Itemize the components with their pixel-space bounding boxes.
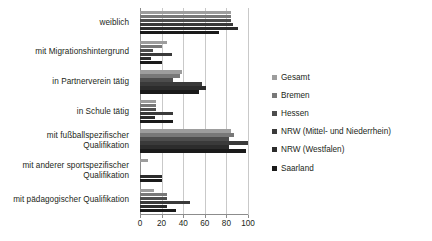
bar[interactable] <box>140 53 172 56</box>
bar[interactable] <box>140 15 231 18</box>
bar-row <box>140 129 248 132</box>
bar[interactable] <box>140 82 202 85</box>
bar-row <box>140 179 248 182</box>
bar[interactable] <box>140 141 248 144</box>
bar[interactable] <box>140 108 156 111</box>
bar-row <box>140 171 248 174</box>
bar-row <box>140 133 248 136</box>
bar[interactable] <box>140 179 162 182</box>
category-label: mit pädagogischer Qualifikation <box>0 185 134 215</box>
bar[interactable] <box>140 201 190 204</box>
bar-row <box>140 31 248 34</box>
bar[interactable] <box>140 189 154 192</box>
bar-row <box>140 167 248 170</box>
bar[interactable] <box>140 104 156 107</box>
bar-row <box>140 90 248 93</box>
category-axis-labels: weiblichmit Migrationshintergrundin Part… <box>0 8 134 215</box>
bar[interactable] <box>140 45 162 48</box>
bar-row <box>140 74 248 77</box>
tick-label: 40 <box>179 219 188 228</box>
bar[interactable] <box>140 27 238 30</box>
legend-label: Gesamt <box>281 73 310 82</box>
bar[interactable] <box>140 11 231 14</box>
bar-group <box>140 156 248 186</box>
tick-mark <box>226 215 227 218</box>
legend-item[interactable]: Hessen <box>272 104 430 122</box>
bar[interactable] <box>140 41 167 44</box>
bar-row <box>140 70 248 73</box>
bar[interactable] <box>140 137 229 140</box>
bar-group <box>140 8 248 38</box>
category-label: mit anderer sportspezifischer Qualifikat… <box>0 156 134 186</box>
bar-row <box>140 197 248 200</box>
tick-label: 60 <box>200 219 209 228</box>
legend-label: Saarland <box>281 164 314 173</box>
bar-row <box>140 159 248 162</box>
legend-swatch-icon <box>272 129 277 134</box>
legend-item[interactable]: Gesamt <box>272 68 430 86</box>
bar[interactable] <box>140 112 173 115</box>
bar[interactable] <box>140 23 233 26</box>
legend-swatch-icon <box>272 147 277 152</box>
bar[interactable] <box>140 193 167 196</box>
bar-row <box>140 86 248 89</box>
bar[interactable] <box>140 145 229 148</box>
bar-row <box>140 61 248 64</box>
legend-label: NRW (Mittel- und Niederrhein) <box>281 127 391 136</box>
bar[interactable] <box>140 78 173 81</box>
bar-row <box>140 120 248 123</box>
bar[interactable] <box>140 159 148 162</box>
legend-swatch-icon <box>272 111 277 116</box>
bar[interactable] <box>140 70 182 73</box>
bar[interactable] <box>140 74 180 77</box>
legend-label: NRW (Westfalen) <box>281 145 344 154</box>
bar-row <box>140 141 248 144</box>
legend-item[interactable]: NRW (Westfalen) <box>272 141 430 159</box>
tick-mark <box>248 215 249 218</box>
legend: GesamtBremenHessenNRW (Mittel- und Niede… <box>272 68 430 177</box>
bar-row <box>140 145 248 148</box>
bar[interactable] <box>140 209 176 212</box>
bar-row <box>140 78 248 81</box>
bar-row <box>140 104 248 107</box>
legend-swatch-icon <box>272 75 277 80</box>
bar-row <box>140 11 248 14</box>
bar-row <box>140 175 248 178</box>
bar[interactable] <box>140 61 162 64</box>
gridline <box>248 8 249 215</box>
legend-item[interactable]: Saarland <box>272 159 430 177</box>
plot-area <box>140 8 248 215</box>
tick-label: 20 <box>157 219 166 228</box>
bar[interactable] <box>140 100 156 103</box>
bar-row <box>140 189 248 192</box>
bar[interactable] <box>140 31 219 34</box>
bar-row <box>140 149 248 152</box>
bar[interactable] <box>140 175 162 178</box>
legend-item[interactable]: Bremen <box>272 86 430 104</box>
bar[interactable] <box>140 120 173 123</box>
bar-group <box>140 38 248 68</box>
bar-row <box>140 23 248 26</box>
bar-row <box>140 57 248 60</box>
bar-group <box>140 67 248 97</box>
legend-item[interactable]: NRW (Mittel- und Niederrhein) <box>272 123 430 141</box>
category-label: mit Migrationshintergrund <box>0 38 134 68</box>
legend-label: Bremen <box>281 91 310 100</box>
bar[interactable] <box>140 205 167 208</box>
bar-row <box>140 112 248 115</box>
bar[interactable] <box>140 149 246 152</box>
bar-row <box>140 193 248 196</box>
bar[interactable] <box>140 19 231 22</box>
bar[interactable] <box>140 129 231 132</box>
bar[interactable] <box>140 86 206 89</box>
bar-row <box>140 116 248 119</box>
bar-row <box>140 41 248 44</box>
bar[interactable] <box>140 133 234 136</box>
bar-group <box>140 126 248 156</box>
tick-label: 0 <box>138 219 143 228</box>
bar[interactable] <box>140 90 199 93</box>
bar[interactable] <box>140 49 153 52</box>
bar[interactable] <box>140 197 167 200</box>
bar[interactable] <box>140 116 155 119</box>
bar[interactable] <box>140 57 151 60</box>
